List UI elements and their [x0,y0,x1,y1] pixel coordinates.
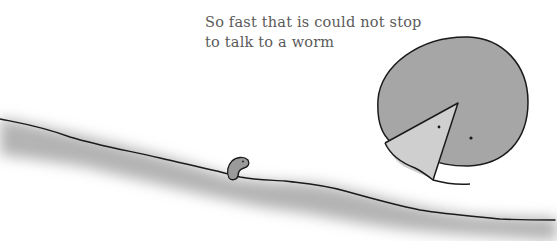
worm [228,157,249,179]
creature-eye-right-icon [469,136,472,139]
worm-eye-icon [242,161,244,163]
caption-line-2: to talk to a worm [205,32,422,52]
story-caption: So fast that is could not stop to talk t… [205,12,422,52]
creature-eye-left-icon [438,126,441,129]
illustration-panel: So fast that is could not stop to talk t… [0,0,557,241]
round-creature [378,37,528,184]
caption-line-1: So fast that is could not stop [205,12,422,32]
